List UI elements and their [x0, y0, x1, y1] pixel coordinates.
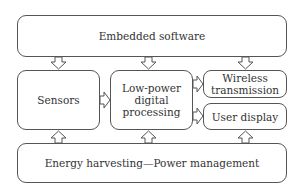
wireless-transmission-box: Wireless transmission	[203, 70, 287, 98]
sensors-box: Sensors	[17, 70, 100, 130]
arrow-right-icon	[193, 76, 203, 92]
arrow-down-icon	[51, 57, 66, 69]
wireless-label-line1: Wireless	[222, 72, 268, 84]
low-power-label-line2: digital	[135, 94, 169, 106]
arrow-up-icon	[51, 131, 66, 143]
arrow-down-icon	[141, 57, 156, 69]
user-display-box: User display	[203, 103, 287, 130]
arrow-right-icon	[193, 108, 203, 124]
low-power-processing-box: Low-power digital processing	[110, 70, 193, 130]
arrow-up-icon	[238, 131, 253, 143]
arrow-right-icon	[100, 92, 110, 108]
energy-harvesting-box: Energy harvesting—Power management	[17, 143, 287, 183]
low-power-label-line3: processing	[123, 106, 181, 118]
embedded-software-label: Embedded software	[99, 30, 206, 42]
embedded-software-box: Embedded software	[17, 15, 287, 57]
user-display-label: User display	[212, 111, 279, 123]
arrow-down-icon	[238, 57, 253, 69]
low-power-label-line1: Low-power	[122, 82, 181, 94]
sensors-label: Sensors	[37, 94, 79, 106]
wireless-label-line2: transmission	[211, 84, 279, 96]
arrow-up-icon	[141, 131, 156, 143]
energy-harvesting-label: Energy harvesting—Power management	[45, 157, 260, 169]
